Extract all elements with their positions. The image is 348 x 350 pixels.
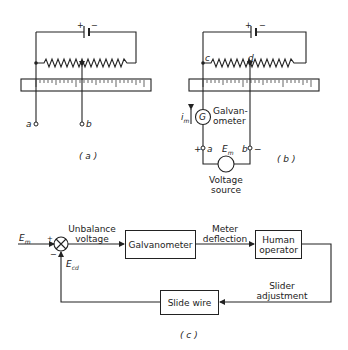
sum-minus-label: − xyxy=(50,250,57,260)
galvanometer-label-2: ometer xyxy=(213,116,246,126)
node-d-label: d xyxy=(248,53,254,63)
feedback-ecd-label: Ecd xyxy=(66,259,79,273)
panel-b-caption: ( b ) xyxy=(277,154,295,164)
slider-label-1: Slider xyxy=(254,281,310,291)
unbalance-label-2: voltage xyxy=(68,234,116,244)
human-operator-block: Humanoperator xyxy=(255,230,302,259)
source-label-2: source xyxy=(204,185,248,195)
terminal-b-minus: − xyxy=(254,144,262,154)
battery-plus-label: + xyxy=(245,21,252,31)
galvanometer-block: Galvanometer xyxy=(125,230,196,259)
emf-label: Em xyxy=(222,144,234,158)
meter-label-1: Meter xyxy=(200,224,250,234)
battery-minus-label: − xyxy=(91,21,98,31)
current-label: im xyxy=(181,112,189,126)
slide-wire-block: Slide wire xyxy=(160,290,219,315)
terminal-a-label: a xyxy=(207,144,213,154)
terminal-b-label: b xyxy=(242,144,248,154)
terminal-b-label: b xyxy=(86,119,92,129)
battery-minus-label: − xyxy=(259,21,266,31)
galvanometer-symbol: G xyxy=(199,112,206,122)
battery-plus-label: + xyxy=(77,21,84,31)
meter-label-2: deflection xyxy=(200,234,250,244)
galvanometer-label-1: Galvan- xyxy=(213,106,248,116)
source-label-1: Voltage xyxy=(204,175,248,185)
terminal-a-plus: + xyxy=(194,144,202,154)
panel-c-caption: ( c ) xyxy=(180,330,198,340)
sum-plus-label: + xyxy=(47,234,53,244)
unbalance-label-1: Unbalance xyxy=(68,224,116,234)
input-emf-label: Em xyxy=(19,233,31,247)
scale-ticks xyxy=(36,80,311,87)
terminal-a-label: a xyxy=(26,119,32,129)
panel-a-caption: ( a ) xyxy=(79,151,97,161)
slider-label-2: adjustment xyxy=(254,291,310,301)
node-c-label: c xyxy=(205,53,210,63)
panel-a-circuit xyxy=(21,26,151,122)
